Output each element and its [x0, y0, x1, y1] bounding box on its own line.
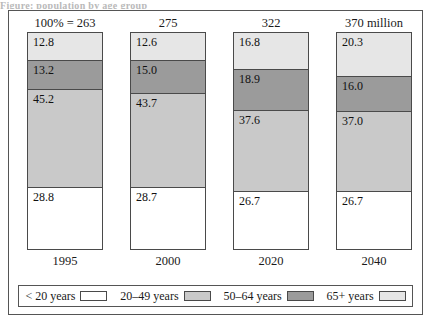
segment-value-label: 28.7 — [136, 191, 157, 204]
category-label-2000: 2000 — [130, 252, 206, 270]
bar-segment[interactable]: 20.3 — [337, 33, 411, 76]
segment-value-label: 37.0 — [342, 115, 363, 128]
segment-value-label: 43.7 — [136, 97, 157, 110]
stacked-bar-2000[interactable]: 12.615.043.728.7 — [130, 32, 206, 250]
bar-segment[interactable]: 28.8 — [28, 187, 102, 249]
segment-value-label: 13.2 — [33, 64, 54, 77]
stacked-bar-1995[interactable]: 12.813.245.228.8 — [27, 32, 103, 250]
segment-value-label: 45.2 — [33, 93, 54, 106]
segment-value-label: 37.6 — [239, 114, 260, 127]
category-label-2040: 2040 — [336, 252, 412, 270]
bar-segment[interactable]: 45.2 — [28, 89, 102, 186]
stacked-bar-2040[interactable]: 20.316.037.026.7 — [336, 32, 412, 250]
legend-label: 20–49 years — [120, 289, 178, 304]
legend-label: 50–64 years — [223, 289, 281, 304]
bar-total-2020: 322 — [219, 15, 323, 31]
segment-value-label: 12.8 — [33, 36, 54, 49]
segment-value-label: 16.8 — [239, 36, 260, 49]
legend-label: 65+ years — [326, 289, 373, 304]
segment-value-label: 20.3 — [342, 36, 363, 49]
bar-total-2000: 275 — [116, 15, 220, 31]
bar-segment[interactable]: 18.9 — [234, 69, 308, 110]
legend-item[interactable]: 20–49 years — [120, 289, 210, 304]
segment-value-label: 26.7 — [239, 195, 260, 208]
bar-total-2040: 370 million — [322, 15, 426, 31]
segment-value-label: 16.0 — [342, 80, 363, 93]
bar-totals-row: 100% = 263275322370 million — [9, 15, 422, 31]
bar-segment[interactable]: 16.8 — [234, 33, 308, 69]
legend-swatch-icon — [184, 291, 211, 301]
legend-swatch-icon — [379, 291, 406, 301]
chart-legend: < 20 years20–49 years50–64 years65+ year… — [18, 285, 413, 307]
legend-swatch-icon — [80, 291, 107, 301]
bar-segment[interactable]: 37.6 — [234, 110, 308, 191]
bar-segment[interactable]: 37.0 — [337, 111, 411, 191]
segment-value-label: 28.8 — [33, 191, 54, 204]
bar-segment[interactable]: 15.0 — [131, 60, 205, 93]
stacked-bar-2020[interactable]: 16.818.937.626.7 — [233, 32, 309, 250]
segment-value-label: 26.7 — [342, 195, 363, 208]
legend-item[interactable]: 50–64 years — [223, 289, 313, 304]
bar-segment[interactable]: 26.7 — [234, 191, 308, 249]
bar-total-1995: 100% = 263 — [13, 15, 117, 31]
legend-item[interactable]: < 20 years — [25, 289, 107, 304]
chart-frame: 100% = 263275322370 million 12.813.245.2… — [8, 10, 423, 315]
legend-swatch-icon — [287, 291, 314, 301]
plot-area: 12.813.245.228.812.615.043.728.716.818.9… — [9, 32, 422, 250]
legend-label: < 20 years — [25, 289, 75, 304]
bar-segment[interactable]: 43.7 — [131, 93, 205, 187]
legend-item[interactable]: 65+ years — [326, 289, 405, 304]
category-label-1995: 1995 — [27, 252, 103, 270]
category-axis: 1995200020202040 — [9, 252, 422, 270]
segment-value-label: 18.9 — [239, 73, 260, 86]
bar-segment[interactable]: 28.7 — [131, 187, 205, 249]
chart-root: Figure: population by age group 100% = 2… — [0, 0, 433, 325]
bar-segment[interactable]: 13.2 — [28, 60, 102, 89]
category-label-2020: 2020 — [233, 252, 309, 270]
segment-value-label: 12.6 — [136, 36, 157, 49]
top-caption-strip: Figure: population by age group — [0, 0, 433, 9]
bar-segment[interactable]: 12.8 — [28, 33, 102, 60]
bar-segment[interactable]: 16.0 — [337, 76, 411, 111]
segment-value-label: 15.0 — [136, 64, 157, 77]
bar-segment[interactable]: 12.6 — [131, 33, 205, 60]
bar-segment[interactable]: 26.7 — [337, 191, 411, 249]
